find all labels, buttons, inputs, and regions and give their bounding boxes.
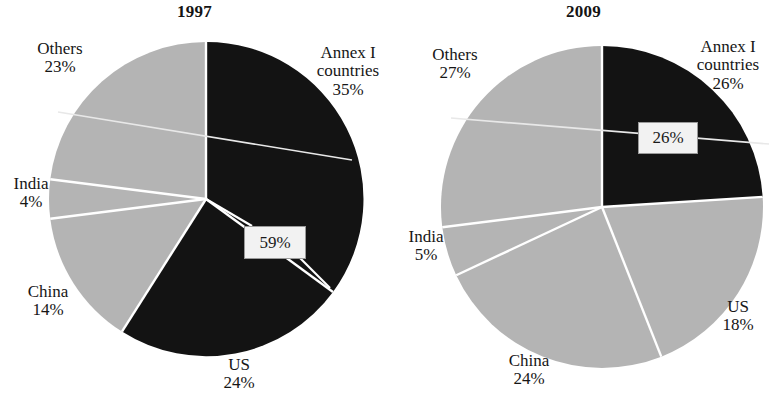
pie-label-china-2009: China 24% — [489, 352, 569, 389]
callout-annex-share-2009: 26% — [638, 122, 698, 154]
pie-label-annex-name2-2009: countries — [679, 56, 777, 74]
pie-label-others-pct-1997: 23% — [14, 58, 106, 76]
pie-label-others-pct-2009: 27% — [409, 64, 501, 82]
pie-label-others-1997: Others 23% — [14, 40, 106, 77]
pie-chart-1997: 1997 Others 23% India 4% — [0, 0, 389, 402]
pie-label-annex-name2-1997: countries — [300, 62, 396, 80]
pie-label-china-name-2009: China — [489, 352, 569, 370]
pie-label-annex-pct-2009: 26% — [679, 75, 777, 93]
pie-label-china-pct-2009: 24% — [489, 370, 569, 388]
pie-label-india-1997: India 4% — [0, 175, 64, 212]
pie-label-others-name-2009: Others — [409, 46, 501, 64]
pie-label-annex-name1-1997: Annex I — [300, 44, 396, 62]
pie-label-india-pct-1997: 4% — [0, 193, 64, 211]
pie-label-india-name-1997: India — [0, 175, 64, 193]
pie-label-us-name-2009: US — [707, 298, 769, 316]
callout-combined-share-1997: 59% — [244, 226, 306, 259]
pie-label-us-pct-2009: 18% — [707, 316, 769, 334]
pie-label-india-2009: India 5% — [393, 228, 459, 265]
pie-label-us-1997: US 24% — [205, 356, 273, 393]
pie-label-china-pct-1997: 14% — [10, 301, 86, 319]
pie-label-india-pct-2009: 5% — [393, 246, 459, 264]
pie-label-china-1997: China 14% — [10, 283, 86, 320]
pie-label-china-name-1997: China — [10, 283, 86, 301]
pie-label-annex-2009: Annex I countries 26% — [679, 38, 777, 93]
pie-label-us-2009: US 18% — [707, 298, 769, 335]
pie-label-others-name-1997: Others — [14, 40, 106, 58]
pie-chart-2009: 2009 Others 27% India 5% China 24% — [389, 0, 778, 402]
pie-label-india-name-2009: India — [393, 228, 459, 246]
pie-label-others-2009: Others 27% — [409, 46, 501, 83]
pie-label-annex-name1-2009: Annex I — [679, 38, 777, 56]
pie-label-us-name-1997: US — [205, 356, 273, 374]
pie-label-us-pct-1997: 24% — [205, 374, 273, 392]
pie-label-annex-pct-1997: 35% — [300, 81, 396, 99]
pie-label-annex-1997: Annex I countries 35% — [300, 44, 396, 99]
